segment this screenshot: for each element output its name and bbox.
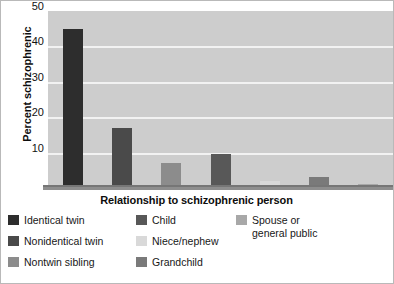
legend-swatch-icon-0 <box>8 215 19 225</box>
gridline-40 <box>48 46 393 48</box>
legend-label-2: Nontwin sibling <box>24 256 95 269</box>
legend-swatch-icon-3 <box>136 215 147 225</box>
legend-swatch-icon-4 <box>136 236 147 246</box>
legend-item-4[interactable]: Niece/nephew <box>136 235 219 248</box>
legend-label-4: Niece/nephew <box>152 235 219 248</box>
gridline-30 <box>48 82 393 84</box>
legend-item-0[interactable]: Identical twin <box>8 214 85 227</box>
bar-1 <box>112 128 132 188</box>
legend-label-6: Spouse or general public <box>252 214 317 239</box>
legend-item-2[interactable]: Nontwin sibling <box>8 256 95 269</box>
legend-item-3[interactable]: Child <box>136 214 176 227</box>
legend-label-0: Identical twin <box>24 214 85 227</box>
legend-swatch-icon-6 <box>236 215 247 225</box>
y-tick-label-40: 40 <box>32 36 44 46</box>
y-tick-label-30: 30 <box>32 72 44 82</box>
x-axis-baseline-edge <box>43 185 393 187</box>
y-axis-tick-labels: 1020304050 <box>18 6 44 187</box>
legend: Identical twinNonidentical twinNontwin s… <box>8 214 388 276</box>
legend-item-5[interactable]: Grandchild <box>136 256 203 269</box>
y-tick-label-10: 10 <box>32 143 44 153</box>
legend-swatch-icon-5 <box>136 257 147 267</box>
y-tick-label-20: 20 <box>32 107 44 117</box>
legend-label-1: Nonidentical twin <box>24 235 103 248</box>
legend-label-3: Child <box>152 214 176 227</box>
x-axis-title: Relationship to schizophrenic person <box>0 194 393 206</box>
legend-label-5: Grandchild <box>152 256 203 269</box>
legend-swatch-icon-1 <box>8 236 19 246</box>
bar-0 <box>63 29 83 188</box>
legend-item-6[interactable]: Spouse or general public <box>236 214 317 239</box>
bar-3 <box>211 154 231 188</box>
legend-swatch-icon-2 <box>8 257 19 267</box>
legend-item-1[interactable]: Nonidentical twin <box>8 235 103 248</box>
plot-area <box>48 11 393 188</box>
y-tick-label-50: 50 <box>32 1 44 11</box>
gridline-20 <box>48 117 393 119</box>
